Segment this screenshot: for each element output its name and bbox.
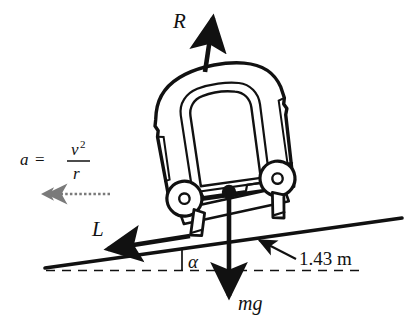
physics-diagram: R L mg α 1.43 m a = v 2 r [0, 0, 412, 325]
right-wheel-hub [272, 173, 284, 185]
cab-window-glass [188, 88, 262, 187]
right-suspension-arm [269, 191, 287, 220]
accel-numerator-variable: v [71, 140, 79, 159]
accel-lhs-label: a [20, 150, 29, 169]
accel-denominator-variable: r [73, 164, 80, 183]
normal-force-label: R [172, 9, 186, 33]
weight-force-label: mg [238, 292, 262, 315]
accel-equals-sign: = [35, 150, 45, 169]
bank-angle-label: α [188, 251, 199, 272]
lateral-force-label: L [91, 217, 104, 241]
accel-numerator-exponent: 2 [80, 138, 86, 150]
left-wheel-hub [179, 193, 191, 205]
track-gauge-label: 1.43 m [299, 248, 352, 269]
free-body-diagram-canvas: R L mg α 1.43 m a = v 2 r [0, 0, 412, 325]
